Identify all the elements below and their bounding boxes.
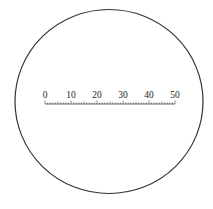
micrometer-scale [45, 101, 175, 105]
scale-labels: 01020304050 [43, 90, 180, 100]
scale-label: 40 [144, 90, 154, 100]
diagram-canvas: 01020304050 [0, 0, 213, 209]
scale-label: 0 [43, 90, 48, 100]
scale-label: 10 [66, 90, 76, 100]
scale-label: 50 [170, 90, 180, 100]
scale-label: 30 [118, 90, 128, 100]
scale-label: 20 [92, 90, 102, 100]
